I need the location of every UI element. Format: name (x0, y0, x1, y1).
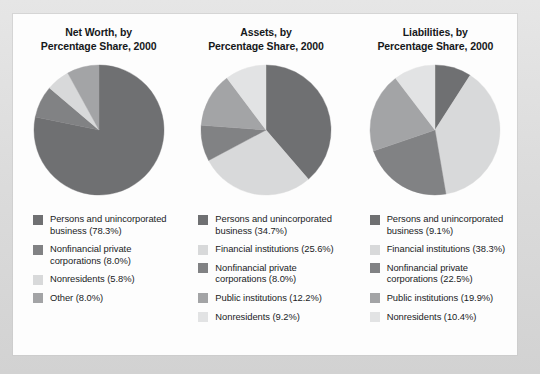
legend-item-label: Persons and unincorporated business (34.… (215, 213, 332, 236)
pie-chart-assets (199, 63, 333, 197)
legend-swatch (370, 215, 380, 225)
legend-item-label: Persons and unincorporated business (78.… (50, 213, 167, 236)
legend-item: Nonresidents (9.2%) (198, 311, 345, 323)
legend-item: Nonresidents (5.8%) (33, 273, 178, 285)
legend-item: Financial institutions (38.3%) (370, 243, 515, 255)
legend-item-label: Nonfinancial private corporations (8.0%) (215, 262, 296, 285)
legend-swatch (370, 293, 380, 303)
chart-panel-liabilities: Liabilities, by Percentage Share, 2000 P… (350, 14, 517, 355)
legend-item: Nonresidents (10.4%) (370, 311, 515, 323)
legend-swatch (33, 215, 43, 225)
legend-item-label: Public institutions (12.2%) (215, 292, 322, 304)
legend-swatch (370, 245, 380, 255)
legend-item-label: Nonfinancial private corporations (22.5%… (387, 262, 473, 285)
legend-item-label: Persons and unincorporated business (9.1… (387, 213, 504, 236)
legend-item: Other (8.0%) (33, 292, 178, 304)
chart-title-liabilities: Liabilities, by Percentage Share, 2000 (377, 26, 493, 53)
legend-item-label: Other (8.0%) (50, 292, 103, 304)
legend-item-label: Public institutions (19.9%) (387, 292, 494, 304)
legend-item-label: Nonresidents (5.8%) (50, 273, 135, 285)
legend-item: Persons and unincorporated business (9.1… (370, 213, 515, 236)
legend-swatch (198, 312, 208, 322)
chart-title-net-worth: Net Worth, by Percentage Share, 2000 (41, 26, 157, 53)
charts-row: Net Worth, by Percentage Share, 2000 Per… (13, 14, 517, 355)
legend-item: Nonfinancial private corporations (8.0%) (198, 262, 345, 285)
legend-item-label: Nonresidents (9.2%) (215, 311, 300, 323)
pie-svg-liabilities (368, 63, 502, 197)
pie-chart-liabilities (368, 63, 502, 197)
legend-assets: Persons and unincorporated business (34.… (186, 213, 345, 329)
legend-item-label: Nonresidents (10.4%) (387, 311, 477, 323)
legend-item-label: Financial institutions (38.3%) (387, 243, 505, 255)
legend-item: Public institutions (12.2%) (198, 292, 345, 304)
chart-title-assets: Assets, by Percentage Share, 2000 (208, 26, 324, 53)
legend-net-worth: Persons and unincorporated business (78.… (19, 213, 178, 311)
figure-panel: Net Worth, by Percentage Share, 2000 Per… (13, 14, 517, 355)
legend-swatch (198, 245, 208, 255)
legend-swatch (370, 263, 380, 273)
chart-panel-assets: Assets, by Percentage Share, 2000 Person… (182, 14, 349, 355)
legend-swatch (198, 263, 208, 273)
legend-item: Persons and unincorporated business (78.… (33, 213, 178, 236)
legend-item-label: Nonfinancial private corporations (8.0%) (50, 243, 131, 266)
legend-swatch (33, 275, 43, 285)
legend-item: Financial institutions (25.6%) (198, 243, 345, 255)
legend-swatch (198, 215, 208, 225)
legend-swatch (33, 293, 43, 303)
legend-item: Persons and unincorporated business (34.… (198, 213, 345, 236)
chart-panel-net-worth: Net Worth, by Percentage Share, 2000 Per… (13, 14, 182, 355)
legend-swatch (198, 293, 208, 303)
legend-swatch (33, 245, 43, 255)
legend-swatch (370, 312, 380, 322)
legend-item: Nonfinancial private corporations (8.0%) (33, 243, 178, 266)
legend-item: Public institutions (19.9%) (370, 292, 515, 304)
legend-item: Nonfinancial private corporations (22.5%… (370, 262, 515, 285)
pie-svg-assets (199, 63, 333, 197)
legend-liabilities: Persons and unincorporated business (9.1… (356, 213, 515, 329)
pie-chart-net-worth (32, 63, 166, 197)
legend-item-label: Financial institutions (25.6%) (215, 243, 333, 255)
pie-svg-net-worth (32, 63, 166, 197)
